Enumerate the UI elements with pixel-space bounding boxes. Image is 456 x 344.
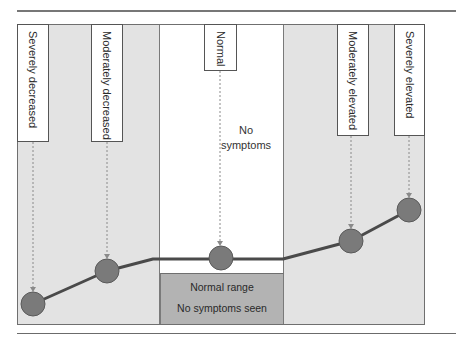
bottom-rule (17, 333, 456, 334)
marker-normal (209, 246, 233, 270)
marker-severely-decreased (21, 292, 45, 316)
trend-overlay (0, 0, 456, 344)
marker-moderately-elevated (339, 229, 363, 253)
markers (21, 198, 421, 316)
arrowhead-icon (348, 224, 354, 229)
arrowhead-icon (104, 254, 110, 259)
arrowhead-icon (406, 193, 412, 198)
arrowhead-icon (30, 287, 36, 292)
arrowhead-icon (217, 241, 223, 246)
marker-moderately-decreased (95, 259, 119, 283)
marker-severely-elevated (397, 198, 421, 222)
